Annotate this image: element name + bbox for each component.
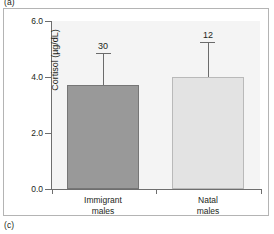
x-tick-middle [156, 189, 157, 194]
y-tick-label-0: 0.0 [31, 184, 43, 194]
sample-size-label-natal: 12 [203, 30, 213, 40]
figure-frame: 0.0 2.0 4.0 6.0 Cortisol (µg/dL) 30 12 I… [3, 8, 269, 216]
y-axis-title: Cortisol (µg/dL) [50, 5, 60, 115]
panel-letter-a: (a) [4, 0, 15, 7]
error-bar-cap-immigrant [96, 53, 111, 54]
x-category-label-immigrant-line2: males [84, 206, 122, 217]
x-tick-right [261, 189, 262, 194]
y-tick-label-1: 2.0 [31, 128, 43, 138]
x-category-label-natal-line1: Natal [197, 195, 220, 206]
y-tick-1: 2.0 [45, 133, 51, 134]
y-tick-label-3: 6.0 [31, 16, 43, 26]
error-bar-cap-natal [200, 42, 215, 43]
x-category-label-immigrant-line1: Immigrant [84, 195, 122, 206]
panel-letter-c: (c) [4, 220, 14, 230]
x-category-label-natal-line2: males [197, 206, 220, 217]
sample-size-label-immigrant: 30 [98, 41, 108, 51]
x-tick-left [52, 189, 53, 194]
error-bar-stem-immigrant [103, 53, 104, 85]
error-bar-stem-natal [208, 42, 209, 77]
bar-immigrant-males[interactable] [67, 85, 139, 189]
y-tick-label-2: 4.0 [31, 72, 43, 82]
x-category-label-immigrant: Immigrant males [84, 195, 122, 216]
bar-natal-males[interactable] [172, 77, 244, 189]
x-category-label-natal: Natal males [197, 195, 220, 216]
